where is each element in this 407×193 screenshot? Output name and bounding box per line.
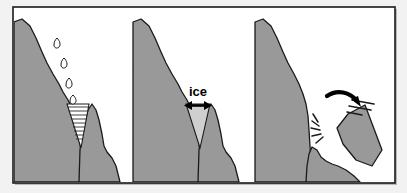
frost-weathering-figure: ice (0, 0, 407, 193)
diagram-canvas: ice (0, 0, 407, 193)
ice-label: ice (189, 84, 207, 99)
